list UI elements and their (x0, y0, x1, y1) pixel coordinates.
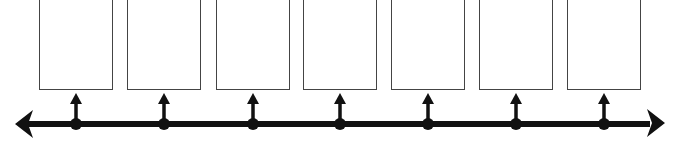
marker-6-icon (510, 93, 522, 130)
marker-1-icon (70, 93, 82, 130)
marker-2-icon (158, 93, 170, 130)
timeline-axis (0, 0, 675, 146)
marker-7-icon (598, 93, 610, 130)
marker-3-icon (247, 93, 259, 130)
marker-4-icon (334, 93, 346, 130)
marker-5-icon (422, 93, 434, 130)
